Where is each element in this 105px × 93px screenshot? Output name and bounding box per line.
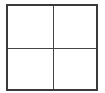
grid-cell-bottom-left	[8, 49, 53, 89]
two-by-two-grid	[6, 4, 98, 91]
grid-cell-bottom-right	[54, 49, 96, 89]
grid-cell-top-right	[54, 6, 96, 48]
grid-cell-top-left	[8, 6, 53, 48]
horizontal-divider	[8, 48, 96, 49]
